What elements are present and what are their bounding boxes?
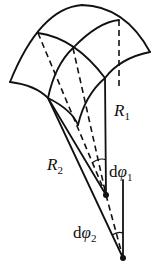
mid-lower-arc [78, 78, 105, 125]
diagram-canvas: R1 R2 dφ1 dφ2 [0, 0, 157, 270]
label-r1: R1 [114, 102, 130, 119]
center-of-curvature-2 [120, 255, 126, 261]
bottom-middle-arc [48, 98, 78, 125]
top-edge-arc [10, 5, 150, 82]
label-r2: R2 [47, 156, 63, 173]
bottom-left-arc [10, 82, 48, 98]
right-edge-arc [105, 52, 150, 78]
left-mid-arc [48, 48, 73, 98]
center-of-curvature-1 [103, 192, 109, 198]
inner-top-arc [73, 20, 119, 48]
inner-line [48, 98, 106, 195]
r1-line [105, 78, 106, 195]
label-dphi1: dφ1 [109, 163, 132, 180]
label-dphi2: dφ2 [73, 224, 96, 241]
